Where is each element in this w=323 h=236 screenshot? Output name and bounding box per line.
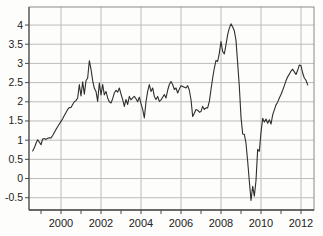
y-tick-label: 1.5 [8, 114, 23, 126]
x-tick-label: 2010 [249, 217, 273, 229]
x-tick-label: 2000 [49, 217, 73, 229]
y-tick-label: 0 [17, 172, 23, 184]
y-tick-label: 4 [17, 19, 23, 31]
y-tick-label: 0.5 [8, 153, 23, 165]
y-tick-label: 3.5 [8, 38, 23, 50]
x-tick-label: 2006 [169, 217, 193, 229]
x-tick-label: 2012 [289, 217, 313, 229]
inflation-line-chart-figure: 2000200220042006200820102012-0.500.511.5… [0, 0, 323, 236]
y-tick-label: -0.5 [5, 191, 23, 203]
y-tick-label: 2 [17, 95, 23, 107]
y-tick-label: 2.5 [8, 76, 23, 88]
y-tick-label: 3 [17, 57, 23, 69]
plot-area [29, 7, 314, 210]
y-tick-label: 1 [17, 134, 23, 146]
x-tick-label: 2002 [89, 217, 113, 229]
chart-canvas: 2000200220042006200820102012-0.500.511.5… [0, 0, 323, 236]
x-tick-label: 2004 [129, 217, 153, 229]
x-tick-label: 2008 [209, 217, 233, 229]
